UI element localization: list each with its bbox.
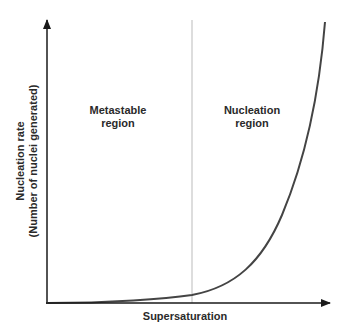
metastable-label-line2: region	[78, 117, 158, 130]
y-axis-label: Nucleation rate (Number of nuclei genera…	[14, 81, 40, 241]
x-axis-label: Supersaturation	[120, 310, 250, 323]
y-axis-label-line2: (Number of nuclei generated)	[27, 81, 40, 241]
chart-canvas	[0, 0, 341, 333]
metastable-region-label: Metastable region	[78, 104, 158, 130]
nucleation-label-line1: Nucleation	[212, 104, 292, 117]
x-axis-label-text: Supersaturation	[143, 310, 227, 322]
metastable-label-line1: Metastable	[78, 104, 158, 117]
y-axis-label-line1: Nucleation rate	[14, 81, 27, 241]
nucleation-region-label: Nucleation region	[212, 104, 292, 130]
nucleation-label-line2: region	[212, 117, 292, 130]
nucleation-rate-curve	[48, 22, 325, 303]
